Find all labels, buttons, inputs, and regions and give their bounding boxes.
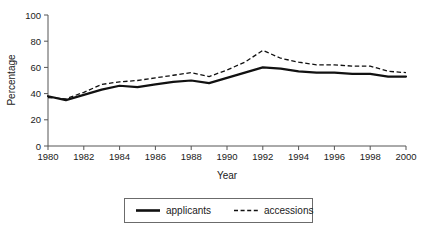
y-tick-label-40: 40 bbox=[30, 88, 41, 99]
x-tick-label-1992: 1992 bbox=[252, 151, 273, 162]
x-tick-label-1996: 1996 bbox=[324, 151, 345, 162]
y-axis-ticks: 0 20 40 60 80 100 bbox=[25, 10, 48, 152]
y-tick-label-60: 60 bbox=[30, 62, 41, 73]
x-tick-label-1990: 1990 bbox=[216, 151, 237, 162]
x-tick-label-1994: 1994 bbox=[288, 151, 309, 162]
y-tick-label-100: 100 bbox=[25, 10, 41, 21]
legend-label-applicants: applicants bbox=[166, 205, 211, 216]
chart-figure: Percentage 0 20 40 60 80 100 1980 1982 bbox=[0, 0, 437, 236]
x-tick-label-1984: 1984 bbox=[109, 151, 130, 162]
series-line-applicants bbox=[48, 67, 406, 100]
y-tick-label-80: 80 bbox=[30, 36, 41, 47]
x-tick-label-1982: 1982 bbox=[73, 151, 94, 162]
x-tick-label-1988: 1988 bbox=[181, 151, 202, 162]
chart-legend: applicants accessions bbox=[125, 199, 314, 223]
y-axis-title: Percentage bbox=[6, 54, 17, 106]
x-tick-label-2000: 2000 bbox=[395, 151, 416, 162]
x-tick-label-1986: 1986 bbox=[145, 151, 166, 162]
x-axis-title: Year bbox=[217, 170, 238, 181]
legend-label-accessions: accessions bbox=[264, 205, 313, 216]
line-chart-svg: Percentage 0 20 40 60 80 100 1980 1982 bbox=[0, 0, 437, 236]
y-tick-label-20: 20 bbox=[30, 114, 41, 125]
x-tick-label-1998: 1998 bbox=[360, 151, 381, 162]
y-tick-label-0: 0 bbox=[36, 141, 41, 152]
x-axis-ticks: 1980 1982 1984 1986 1988 1990 1992 1994 … bbox=[37, 146, 416, 162]
x-tick-label-1980: 1980 bbox=[37, 151, 58, 162]
